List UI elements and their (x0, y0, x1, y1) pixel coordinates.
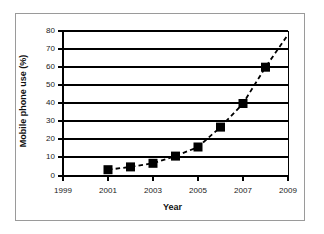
y-tick-label-10: 10 (33, 152, 55, 161)
y-tick-label-60: 60 (33, 62, 55, 71)
y-tick-label-50: 50 (33, 80, 55, 89)
x-tick-label-2001: 2001 (88, 186, 128, 195)
x-tick-label-2007: 2007 (223, 186, 263, 195)
x-axis-title: Year (55, 202, 290, 212)
y-tick-label-0: 0 (33, 171, 55, 180)
x-tick-label-1999: 1999 (43, 186, 83, 195)
x-tick-label-2005: 2005 (178, 186, 218, 195)
y-tick-label-80: 80 (33, 26, 55, 35)
y-tick-label-20: 20 (33, 134, 55, 143)
y-tick-label-30: 30 (33, 116, 55, 125)
y-tick-label-70: 70 (33, 44, 55, 53)
chart-figure: 80 70 60 50 40 30 20 10 0 1999 2001 2003… (0, 0, 324, 234)
y-tick-label-40: 40 (33, 98, 55, 107)
x-tick-label-2009: 2009 (268, 186, 308, 195)
x-tick-label-2003: 2003 (133, 186, 173, 195)
gridlines (63, 31, 288, 157)
y-axis-title: Mobile phone use (%) (18, 41, 28, 161)
